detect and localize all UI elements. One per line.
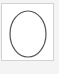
ellipse-icon [2, 4, 55, 62]
polygon-tool-button[interactable]: Polygon [20, 67, 40, 74]
ellipse-tool-button[interactable]: Ellipse [1, 3, 54, 61]
